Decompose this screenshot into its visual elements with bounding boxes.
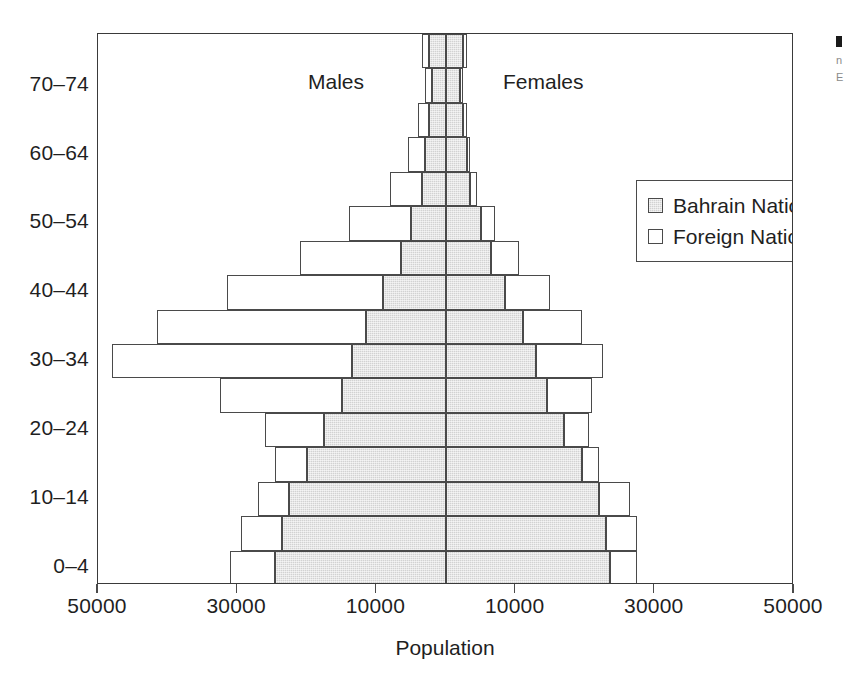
y-axis-tick-label-0: 0–4 (0, 554, 89, 578)
chart-legend: Bahrain Nationals Foreign Nationals (636, 180, 793, 262)
bar-female-national-25–29 (446, 378, 547, 412)
y-axis-tick-label-10: 50–54 (0, 209, 89, 233)
y-axis-tick-label-14: 70–74 (0, 72, 89, 96)
bar-female-foreign-35–39 (523, 310, 582, 344)
bar-male-national-65–69 (429, 103, 446, 137)
bar-male-national-0–4 (275, 551, 446, 584)
x-axis-tick-label-2: 10000 (315, 594, 435, 618)
y-axis-tick-labels: 0–410–1420–2430–3440–4450–5460–6470–74 (0, 0, 89, 694)
margin-note-line-2: E (836, 69, 852, 86)
bar-female-national-60–64 (446, 137, 467, 171)
margin-note: n E (836, 36, 852, 86)
x-axis-tick-label-3: 10000 (455, 594, 575, 618)
x-axis-tick-label-1: 30000 (176, 594, 296, 618)
bar-male-national-55–59 (422, 172, 446, 206)
x-axis-tick-3 (514, 584, 515, 593)
bar-male-foreign-50–54 (349, 206, 412, 240)
bar-female-foreign-15–19 (582, 447, 599, 481)
bar-male-national-5–9 (282, 516, 446, 550)
bar-male-foreign-65–69 (418, 103, 428, 137)
margin-note-line-1: n (836, 52, 852, 69)
bar-female-national-55–59 (446, 172, 470, 206)
bar-male-foreign-30–34 (112, 344, 352, 378)
bar-female-national-70–74 (446, 68, 460, 102)
bar-male-national-30–34 (352, 344, 446, 378)
bar-female-foreign-50–54 (481, 206, 495, 240)
x-axis-tick-4 (653, 584, 654, 593)
legend-label-foreign: Foreign Nationals (673, 225, 793, 249)
bar-male-foreign-40–44 (227, 275, 384, 309)
bar-female-national-50–54 (446, 206, 481, 240)
bar-female-foreign-70–74 (460, 68, 463, 102)
bar-female-foreign-65–69 (463, 103, 466, 137)
bar-female-national-30–34 (446, 344, 536, 378)
bar-female-foreign-25–29 (547, 378, 592, 412)
x-axis-tick-label-0: 50000 (37, 594, 157, 618)
bar-male-foreign-35–39 (157, 310, 366, 344)
legend-label-bahrain: Bahrain Nationals (673, 194, 793, 218)
females-side-caption: Females (503, 70, 584, 94)
bar-female-foreign-30–34 (536, 344, 602, 378)
bar-male-foreign-15–19 (275, 447, 306, 481)
plot-area: Males Females Bahrain Nationals Foreign … (97, 33, 793, 584)
bar-female-national-10–14 (446, 482, 599, 516)
bar-male-national-45–49 (401, 241, 446, 275)
x-axis-tick-0 (96, 584, 97, 593)
bar-male-national-75+ (429, 34, 446, 68)
bar-female-foreign-40–44 (505, 275, 550, 309)
legend-item-foreign-nationals: Foreign Nationals (648, 221, 793, 252)
bar-male-foreign-25–29 (220, 378, 342, 412)
males-side-caption: Males (308, 70, 364, 94)
legend-swatch-icon-bahrain (648, 198, 663, 213)
y-axis-tick-label-2: 10–14 (0, 485, 89, 509)
bar-female-foreign-60–64 (467, 137, 470, 171)
bar-male-national-10–14 (289, 482, 446, 516)
bar-female-foreign-0–4 (610, 551, 638, 584)
bar-male-foreign-60–64 (408, 137, 425, 171)
bar-female-foreign-5–9 (606, 516, 637, 550)
bar-male-national-60–64 (425, 137, 446, 171)
x-axis-tick-label-4: 30000 (594, 594, 714, 618)
bar-female-national-40–44 (446, 275, 505, 309)
x-axis-tick-5 (792, 584, 793, 593)
bar-female-national-35–39 (446, 310, 523, 344)
x-axis-tick-1 (236, 584, 237, 593)
bar-male-foreign-55–59 (390, 172, 421, 206)
x-axis-tick-label-5: 50000 (733, 594, 852, 618)
y-axis-tick-label-8: 40–44 (0, 278, 89, 302)
bar-female-foreign-75+ (463, 34, 466, 68)
y-axis-tick-label-4: 20–24 (0, 416, 89, 440)
bar-male-national-35–39 (366, 310, 446, 344)
x-axis-tick-2 (375, 584, 376, 593)
bar-female-foreign-10–14 (599, 482, 630, 516)
y-axis-tick-label-6: 30–34 (0, 347, 89, 371)
bar-male-foreign-0–4 (230, 551, 275, 584)
bar-female-national-15–19 (446, 447, 582, 481)
bar-female-national-65–69 (446, 103, 463, 137)
bar-male-national-20–24 (324, 413, 446, 447)
y-axis-tick-label-12: 60–64 (0, 141, 89, 165)
bar-male-national-15–19 (307, 447, 446, 481)
legend-item-bahrain-nationals: Bahrain Nationals (648, 190, 793, 221)
bar-male-national-25–29 (342, 378, 446, 412)
bar-male-foreign-5–9 (241, 516, 283, 550)
bar-female-foreign-45–49 (491, 241, 519, 275)
x-axis-title: Population (97, 636, 793, 660)
bar-male-foreign-20–24 (265, 413, 324, 447)
bar-male-foreign-10–14 (258, 482, 289, 516)
bar-female-national-20–24 (446, 413, 564, 447)
bar-female-foreign-20–24 (564, 413, 588, 447)
population-pyramid-figure: 0–410–1420–2430–3440–4450–5460–6470–74 M… (0, 0, 852, 694)
bar-male-national-70–74 (432, 68, 446, 102)
bar-male-foreign-75+ (422, 34, 429, 68)
legend-swatch-icon-foreign (648, 229, 663, 244)
bar-female-national-75+ (446, 34, 463, 68)
bar-male-foreign-45–49 (300, 241, 401, 275)
margin-note-rule (836, 36, 842, 47)
bar-female-national-45–49 (446, 241, 491, 275)
bar-male-national-50–54 (411, 206, 446, 240)
bar-female-national-5–9 (446, 516, 606, 550)
bar-female-national-0–4 (446, 551, 610, 584)
bar-female-foreign-55–59 (470, 172, 477, 206)
bar-male-foreign-70–74 (425, 68, 432, 102)
